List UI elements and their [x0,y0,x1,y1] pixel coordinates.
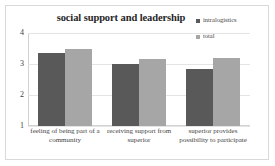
plot-area: 4321 [28,33,250,126]
square-marker-icon [196,19,200,23]
chart-frame: social support and leadership intralogis… [5,5,269,160]
bar-group [28,33,102,126]
bar-intralogistics[interactable] [38,53,65,126]
bar-total[interactable] [213,58,240,126]
bar-group [176,33,250,126]
y-axis-tick-label: 2 [20,91,24,99]
bar-group [102,33,176,126]
legend-item-intralogistics[interactable]: intralogistics [196,14,264,27]
x-axis-labels: feeling of being part of a communityrece… [28,127,250,144]
bar-total[interactable] [139,59,166,126]
bars-layer [28,33,250,126]
bar-total[interactable] [65,49,92,127]
y-axis-tick-label: 3 [20,60,24,68]
bar-intralogistics[interactable] [186,69,213,126]
chart-title: social support and leadership [46,12,196,23]
bar-intralogistics[interactable] [112,64,139,126]
x-axis-label: feeling of being part of a community [28,127,102,144]
x-axis-label: receiving support from superior [102,127,176,144]
y-axis-tick-label: 4 [20,29,24,37]
x-axis-label: superior provides possibility to partici… [176,127,250,144]
y-axis-tick-label: 1 [20,122,24,130]
legend-label: intralogistics [203,17,237,24]
